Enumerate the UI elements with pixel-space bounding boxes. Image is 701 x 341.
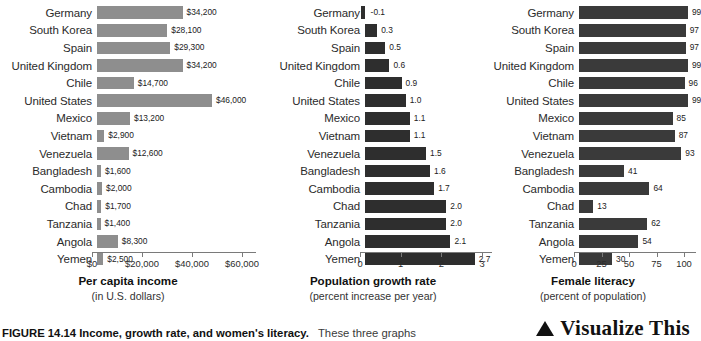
bar: [365, 165, 430, 178]
category-label: United States: [256, 95, 365, 107]
bar: [97, 147, 129, 160]
bar: [579, 182, 649, 195]
bar: [365, 235, 450, 248]
bar-value-label: 2.0: [450, 218, 462, 229]
bar-row: United States1.0: [256, 92, 490, 110]
bar: [579, 130, 675, 143]
axis-tick: [441, 252, 442, 257]
bar-value-label: 1.7: [438, 183, 450, 194]
bar-row: Tanzania2.0: [256, 215, 490, 233]
category-label: Venezuela: [256, 148, 365, 160]
bar-row: Cambodia1.7: [256, 180, 490, 198]
bar: [97, 94, 212, 107]
bar: [365, 77, 402, 90]
bar-value-label: 1.0: [410, 95, 422, 106]
category-label: Bangladesh: [0, 165, 97, 177]
axis-line: [574, 252, 696, 253]
bar-rows-growth: Germany-0.1South Korea0.3Spain0.5United …: [256, 4, 490, 268]
category-label: Spain: [256, 42, 365, 54]
visualize-this-banner: Visualize This: [536, 316, 690, 341]
bar-track: 0.9: [365, 74, 490, 92]
bar-row: Cambodia64: [490, 180, 696, 198]
bar-track: 99: [579, 92, 696, 110]
figure-caption-label: FIGURE 14.14 Income, growth rate, and wo…: [2, 327, 309, 339]
bar-row: United Kingdom99: [490, 57, 696, 75]
bar: [365, 182, 434, 195]
bar-track: 99: [579, 4, 696, 22]
bar-track: 87: [579, 127, 696, 145]
bar: [97, 42, 170, 55]
bar-row: Angola54: [490, 233, 696, 251]
axis-tick: [192, 252, 193, 257]
bar-track: $1,600: [97, 162, 256, 180]
bar-row: Tanzania62: [490, 215, 696, 233]
bar-track: 0.3: [365, 22, 490, 40]
bar-row: Chile96: [490, 74, 696, 92]
bar-value-label: $2,900: [108, 130, 134, 141]
bar-track: $28,100: [97, 22, 256, 40]
bar-track: $2,000: [97, 180, 256, 198]
bar: [97, 24, 167, 37]
bar-row: Bangladesh1.6: [256, 162, 490, 180]
bar: [365, 94, 406, 107]
axis-tick: [242, 252, 243, 257]
bar-row: Germany$34,200: [0, 4, 256, 22]
bar-row: Vietnam1.1: [256, 127, 490, 145]
bar-value-label: $28,100: [171, 25, 201, 36]
category-label: United Kingdom: [490, 60, 579, 72]
bar: [579, 94, 688, 107]
category-label: Chad: [256, 200, 365, 212]
bar: [579, 165, 624, 178]
bar: [97, 218, 101, 231]
bar-track: 96: [579, 74, 696, 92]
bar-row: United States$46,000: [0, 92, 256, 110]
axis-tick-label: 1: [398, 258, 403, 269]
category-label: Tanzania: [0, 218, 97, 230]
bar-value-label: 41: [628, 166, 637, 177]
bar-row: Tanzania$1,400: [0, 215, 256, 233]
bar-row: United States99: [490, 92, 696, 110]
bar-track: 2.0: [365, 198, 490, 216]
bar-value-label: $46,000: [216, 95, 246, 106]
category-label: Yemen: [490, 253, 579, 265]
bar-value-label: 1.5: [430, 148, 442, 159]
category-label: South Korea: [0, 24, 97, 36]
bar-value-label: 0.6: [393, 60, 405, 71]
bar-track: 97: [579, 39, 696, 57]
bar: [365, 130, 410, 143]
axis-tick-label: 50: [624, 258, 634, 269]
axis-tick: [401, 252, 402, 257]
bar: [365, 253, 475, 266]
category-label: Chad: [0, 200, 97, 212]
bar: [365, 218, 446, 231]
axis-title-literacy: Female literacy: [490, 274, 696, 287]
bar-track: 1.6: [365, 162, 490, 180]
chart-population-growth-rate: Germany-0.1South Korea0.3Spain0.5United …: [256, 0, 490, 305]
category-label: Germany: [0, 7, 97, 19]
bar-value-label: 1.1: [414, 113, 426, 124]
axis-tick: [92, 252, 93, 257]
triangle-up-icon: [536, 321, 554, 336]
bar-row: Chile$14,700: [0, 74, 256, 92]
axis-tick-label: 100: [676, 258, 692, 269]
bar: [579, 6, 688, 19]
bar: [365, 24, 377, 37]
bar-row: Chad$1,700: [0, 198, 256, 216]
bar-track: 93: [579, 145, 696, 163]
bar-track: $14,700: [97, 74, 256, 92]
bar-track: 99: [579, 57, 696, 75]
bar: [97, 6, 183, 19]
axis-tick-label: 3: [479, 258, 484, 269]
chart-female-literacy: Germany99South Korea97Spain97United King…: [490, 0, 696, 305]
bar-value-label: 2.1: [454, 236, 466, 247]
bar: [365, 59, 389, 72]
bar: [579, 24, 686, 37]
axis-title-income: Per capita income: [0, 274, 256, 287]
axis-tick-label: 2: [439, 258, 444, 269]
bar-track: 0.6: [365, 57, 490, 75]
figure-caption: FIGURE 14.14 Income, growth rate, and wo…: [2, 327, 416, 339]
bar-row: Chad2.0: [256, 198, 490, 216]
bar-value-label: 0.5: [389, 42, 401, 53]
bar-track: 97: [579, 22, 696, 40]
